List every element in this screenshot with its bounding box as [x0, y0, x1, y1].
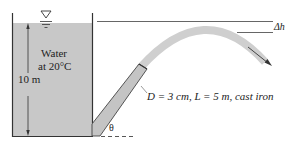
angle-label: θ: [109, 123, 114, 133]
pipe-spec-label: D = 3 cm, L = 5 m, cast iron: [147, 91, 273, 102]
height-label: 10 m: [18, 73, 40, 86]
jet-direction-arrow-icon: [248, 47, 272, 66]
fluid-label-line2: at 20°C: [38, 61, 71, 72]
fluid-label-line1: Water: [41, 48, 67, 59]
tank-pipe-diagram: [0, 0, 290, 145]
water-jet: [140, 30, 265, 68]
inclined-pipe: [92, 64, 147, 136]
delta-h-label: Δh: [274, 22, 285, 32]
